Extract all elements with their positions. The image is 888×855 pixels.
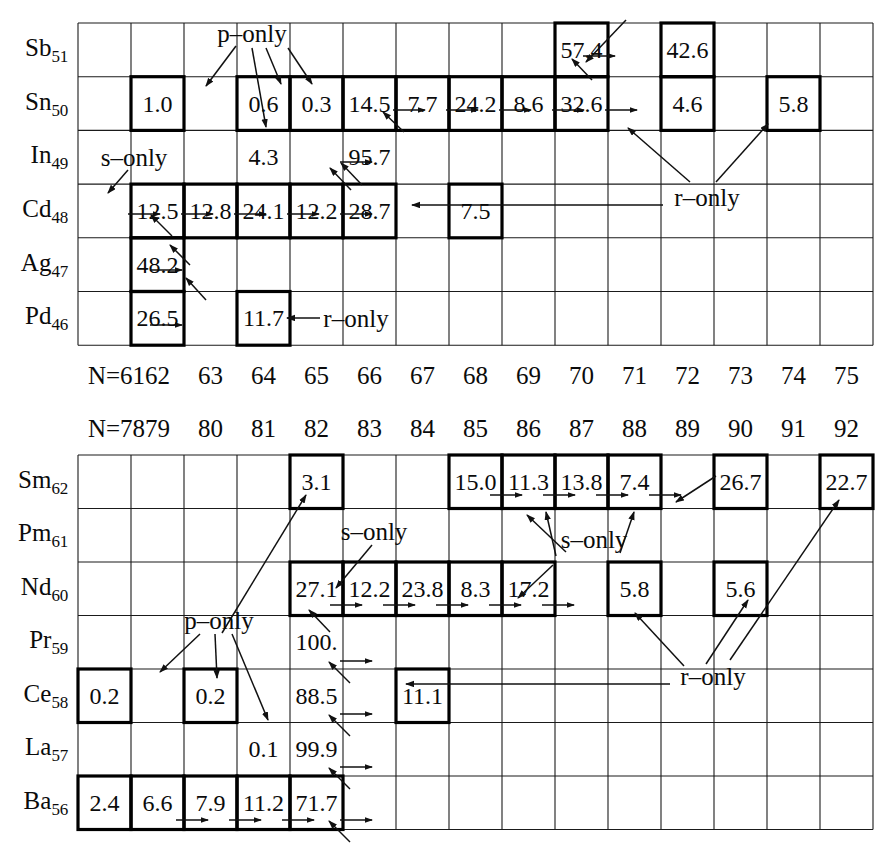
- cell-value: 42.6: [667, 38, 709, 62]
- cell-value: 0.1: [249, 737, 279, 761]
- annotation-ronly: r–only: [323, 306, 388, 331]
- cell-value: 6.6: [143, 791, 173, 815]
- neutron-number-tick: 74: [781, 363, 806, 388]
- cell-value: 4.6: [673, 92, 703, 116]
- cell-value: 11.1: [402, 684, 443, 708]
- cell-value: 0.2: [90, 684, 120, 708]
- lower-panel-arrows: [160, 476, 839, 842]
- neutron-number-tick: 90: [728, 416, 753, 441]
- neutron-number-tick: 81: [251, 416, 276, 441]
- neutron-number-tick: 63: [198, 363, 223, 388]
- row-label-Sn: Sn50: [25, 89, 68, 118]
- neutron-number-tick: 73: [728, 363, 753, 388]
- cell-value: 5.6: [726, 577, 756, 601]
- neutron-number-tick: 85: [463, 416, 488, 441]
- neutron-number-tick: 83: [357, 416, 382, 441]
- neutron-number-tick: 75: [834, 363, 859, 388]
- row-label-Nd: Nd60: [21, 574, 68, 603]
- cell-value: 5.8: [620, 577, 650, 601]
- neutron-number-tick: 65: [304, 363, 329, 388]
- neutron-number-tick: 71: [622, 363, 647, 388]
- neutron-number-tick: 64: [251, 363, 276, 388]
- cell-value: 8.6: [514, 92, 544, 116]
- row-label-In: In49: [31, 143, 68, 172]
- annotation-sonly: s–only: [561, 527, 628, 552]
- cell-value: 11.7: [243, 306, 284, 330]
- upper-panel-arrows: [108, 20, 768, 325]
- cell-value: 71.7: [296, 791, 338, 815]
- cell-value: 100.: [296, 630, 338, 654]
- neutron-number-tick: 87: [569, 416, 594, 441]
- annotation-ponly: p–only: [217, 21, 286, 46]
- cell-value: 0.3: [302, 92, 332, 116]
- row-label-Sm: Sm62: [18, 467, 68, 496]
- cell-value: 57.4: [561, 38, 603, 62]
- neutron-number-tick: 89: [675, 416, 700, 441]
- neutron-number-tick: 66: [357, 363, 382, 388]
- cell-value: 12.2: [296, 199, 338, 223]
- neutron-number-tick: 62: [145, 363, 170, 388]
- neutron-number-tick: 80: [198, 416, 223, 441]
- cell-value: 14.5: [349, 92, 391, 116]
- row-label-Pr: Pr59: [29, 628, 68, 657]
- row-label-Sb: Sb51: [25, 35, 68, 64]
- cell-value: 17.2: [508, 577, 550, 601]
- cell-value: 11.3: [508, 470, 549, 494]
- neutron-number-tick: 70: [569, 363, 594, 388]
- annotation-sonly: s–only: [101, 145, 168, 170]
- cell-value: 12.2: [349, 577, 391, 601]
- cell-value: 23.8: [402, 577, 444, 601]
- neutron-number-tick: 91: [781, 416, 806, 441]
- row-label-Ce: Ce58: [24, 681, 68, 710]
- cell-value: 28.7: [349, 199, 391, 223]
- cell-value: 11.2: [243, 791, 284, 815]
- row-label-La: La57: [25, 735, 68, 764]
- cell-value: 8.3: [461, 577, 491, 601]
- cell-value: 13.8: [561, 470, 603, 494]
- cell-value: 24.1: [243, 199, 285, 223]
- cell-value: 99.9: [296, 737, 338, 761]
- row-label-Cd: Cd48: [22, 196, 68, 225]
- cell-value: 27.1: [296, 577, 338, 601]
- neutron-number-tick: N=78: [88, 416, 145, 441]
- neutron-number-tick: 68: [463, 363, 488, 388]
- cell-value: 0.2: [196, 684, 226, 708]
- annotation-ponly: p–only: [184, 608, 253, 633]
- annotation-ronly: r–only: [674, 185, 739, 210]
- annotation-sonly: s–only: [341, 519, 408, 544]
- cell-value: 7.7: [408, 92, 438, 116]
- cell-value: 4.3: [249, 145, 279, 169]
- cell-value: 88.5: [296, 684, 338, 708]
- annotation-ronly: r–only: [680, 664, 745, 689]
- neutron-number-tick: 82: [304, 416, 329, 441]
- neutron-number-tick: 72: [675, 363, 700, 388]
- cell-value: 12.8: [190, 199, 232, 223]
- neutron-number-tick: 92: [834, 416, 859, 441]
- cell-value: 48.2: [137, 253, 179, 277]
- cell-value: 0.6: [249, 92, 279, 116]
- cell-value: 12.5: [137, 199, 179, 223]
- row-label-Ag: Ag47: [21, 250, 68, 279]
- neutron-number-tick: 79: [145, 416, 170, 441]
- cell-value: 22.7: [826, 470, 868, 494]
- cell-value: 32.6: [561, 92, 603, 116]
- row-label-Pd: Pd46: [25, 304, 68, 333]
- neutron-number-tick: N=61: [88, 363, 145, 388]
- cell-value: 15.0: [455, 470, 497, 494]
- neutron-number-tick: 84: [410, 416, 435, 441]
- cell-value: 3.1: [302, 470, 332, 494]
- row-label-Pm: Pm61: [18, 521, 68, 550]
- cell-value: 24.2: [455, 92, 497, 116]
- cell-value: 5.8: [779, 92, 809, 116]
- cell-value: 2.4: [90, 791, 120, 815]
- cell-value: 7.5: [461, 199, 491, 223]
- cell-value: 26.5: [137, 306, 179, 330]
- cell-value: 95.7: [349, 145, 391, 169]
- cell-value: 7.9: [196, 791, 226, 815]
- isotope-abundance-figure: Sb51Sn50In49Cd48Ag47Pd4657.442.61.00.60.…: [0, 0, 888, 855]
- cell-value: 1.0: [143, 92, 173, 116]
- row-label-Ba: Ba56: [24, 788, 68, 817]
- neutron-number-tick: 69: [516, 363, 541, 388]
- neutron-number-tick: 88: [622, 416, 647, 441]
- cell-value: 26.7: [720, 470, 762, 494]
